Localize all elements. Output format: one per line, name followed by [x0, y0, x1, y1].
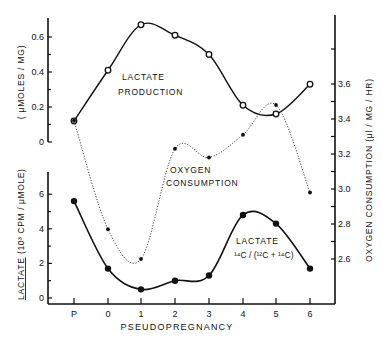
x-tick-label: 3	[206, 309, 211, 319]
lactate-ratio-point	[71, 198, 77, 204]
left-upper-tick-label: 0	[39, 137, 44, 147]
right-tick-label: 3.0	[338, 184, 351, 194]
oxygen-consumption-point	[139, 257, 143, 261]
left-lower-tick-label: 0	[39, 293, 44, 303]
x-tick-label: P	[71, 309, 77, 319]
left-upper-axis-title: ( μMOLES / MG)	[16, 45, 26, 120]
right-tick-label: 3.4	[338, 114, 351, 124]
right-tick-label: 2.6	[338, 254, 351, 264]
lactate-ratio-point	[240, 212, 246, 218]
chart: P012345600.20.40.602462.62.83.03.23.43.6…	[0, 0, 382, 343]
right-axis-title: OXYGEN CONSUMPTION (μl / MG / HR)	[364, 78, 374, 262]
oxygen-consumption-point	[274, 103, 278, 107]
oxygen-consumption-point	[106, 227, 110, 231]
lactate-ratio-point	[307, 265, 313, 271]
lactate-ratio-point	[206, 272, 212, 278]
oxygen-consumption-point	[207, 156, 211, 160]
oxygen-consumption-point	[173, 147, 177, 151]
left-lower-tick-label: 4	[39, 224, 44, 234]
x-tick-label: 6	[307, 309, 312, 319]
oxygen-consumption-label-2: CONSUMPTION	[166, 178, 239, 188]
x-tick-label: 0	[105, 309, 110, 319]
lactate-production-point	[307, 81, 313, 87]
x-tick-label: 5	[273, 309, 278, 319]
lactate-ratio-label-1: LACTATE	[236, 236, 279, 246]
right-tick-label: 3.2	[338, 149, 351, 159]
x-tick-label: 4	[240, 309, 245, 319]
left-lower-tick-label: 2	[39, 258, 44, 268]
right-tick-label: 2.8	[338, 219, 351, 229]
left-upper-tick-label: 0.4	[31, 67, 44, 77]
axes	[48, 15, 335, 304]
lactate-production-point	[105, 67, 111, 73]
x-tick-label: 1	[138, 309, 143, 319]
lactate-production-label-1: LACTATE	[122, 72, 165, 82]
lactate-production-label-2: PRODUCTION	[118, 87, 183, 97]
lactate-ratio-label-2: ¹⁴C / (¹²C + ¹⁴C)	[234, 250, 294, 260]
lactate-ratio-point	[138, 286, 144, 292]
tick-labels: P012345600.20.40.602462.62.83.03.23.43.6	[31, 32, 350, 319]
oxygen-consumption-label-1: OXYGEN	[170, 165, 211, 175]
x-tick-label: 2	[172, 309, 177, 319]
lactate-production-point	[240, 102, 246, 108]
lactate-ratio-point	[105, 265, 111, 271]
left-upper-tick-label: 0.2	[31, 102, 44, 112]
oxygen-consumption-point	[72, 119, 76, 123]
left-lower-axis-title-main: LACTATE	[16, 257, 26, 300]
lactate-production-point	[172, 32, 178, 38]
lactate-production-point	[273, 111, 279, 117]
left-lower-tick-label: 6	[39, 189, 44, 199]
right-tick-label: 3.6	[338, 79, 351, 89]
lactate-ratio-point	[273, 220, 279, 226]
left-lower-axis-title-units: (10³ CPM / μMOLE)	[16, 169, 26, 254]
oxygen-consumption-point	[241, 133, 245, 137]
oxygen-consumption-point	[308, 191, 312, 195]
left-upper-tick-label: 0.6	[31, 32, 44, 42]
lactate-ratio-point	[172, 278, 178, 284]
lactate-production-point	[138, 22, 144, 28]
lactate-production-point	[206, 52, 212, 58]
x-axis-title: PSEUDOPREGNANCY	[120, 322, 233, 332]
